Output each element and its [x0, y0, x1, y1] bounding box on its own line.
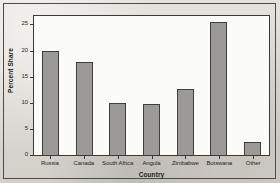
y-axis-title: Percent Share: [7, 31, 14, 111]
bar-slot: [101, 16, 135, 155]
x-axis-tick-label: Angola: [142, 160, 160, 166]
bar-slot: [235, 16, 269, 155]
bar[interactable]: [210, 22, 227, 155]
y-axis-tick-label: 15: [22, 73, 28, 79]
x-axis-tick: Other: [236, 156, 270, 170]
x-axis-tick-mark: [219, 156, 220, 159]
x-axis-tick: Canada: [67, 156, 101, 170]
x-axis-title: Country: [33, 171, 270, 178]
x-axis-tick-mark: [185, 156, 186, 159]
x-axis-tick-mark: [152, 156, 153, 159]
bar[interactable]: [109, 103, 126, 155]
bars-container: [34, 16, 269, 155]
x-axis-tick: Russia: [33, 156, 67, 170]
x-axis-tick-mark: [50, 156, 51, 159]
x-axis-tick-label: Botswana: [206, 160, 232, 166]
x-axis-tick: Angola: [135, 156, 169, 170]
x-axis-tick-mark: [118, 156, 119, 159]
x-axis-tick: Zimbabwe: [168, 156, 202, 170]
bar-slot: [168, 16, 202, 155]
y-axis-tick-label: 25: [22, 20, 28, 26]
bar[interactable]: [76, 62, 93, 155]
y-axis-tick-label: 20: [22, 47, 28, 53]
y-axis-tick-label: 10: [22, 99, 28, 105]
x-axis-tick: South Africa: [101, 156, 135, 170]
x-axis: RussiaCanadaSouth AfricaAngolaZimbabweBo…: [33, 156, 270, 170]
x-axis-tick: Botswana: [202, 156, 236, 170]
bar[interactable]: [42, 51, 59, 155]
y-axis-tick-label: 0: [25, 151, 28, 157]
x-axis-tick-label: Russia: [41, 160, 59, 166]
bar[interactable]: [177, 89, 194, 155]
x-axis-tick-mark: [84, 156, 85, 159]
bar[interactable]: [143, 104, 160, 155]
y-axis: 0510152025 Percent Share: [0, 15, 33, 156]
bar-slot: [135, 16, 169, 155]
y-axis-tick-label: 5: [25, 125, 28, 131]
x-axis-tick-mark: [253, 156, 254, 159]
bar-slot: [34, 16, 68, 155]
bar-slot: [68, 16, 102, 155]
x-axis-tick-label: Zimbabwe: [172, 160, 199, 166]
bar[interactable]: [244, 142, 261, 155]
bar-slot: [202, 16, 236, 155]
plot-area: [33, 15, 270, 156]
x-axis-tick-label: Canada: [74, 160, 94, 166]
x-axis-tick-label: Other: [246, 160, 261, 166]
x-axis-tick-label: South Africa: [102, 160, 133, 166]
bar-chart-figure: 0510152025 Percent Share RussiaCanadaSou…: [0, 0, 280, 183]
